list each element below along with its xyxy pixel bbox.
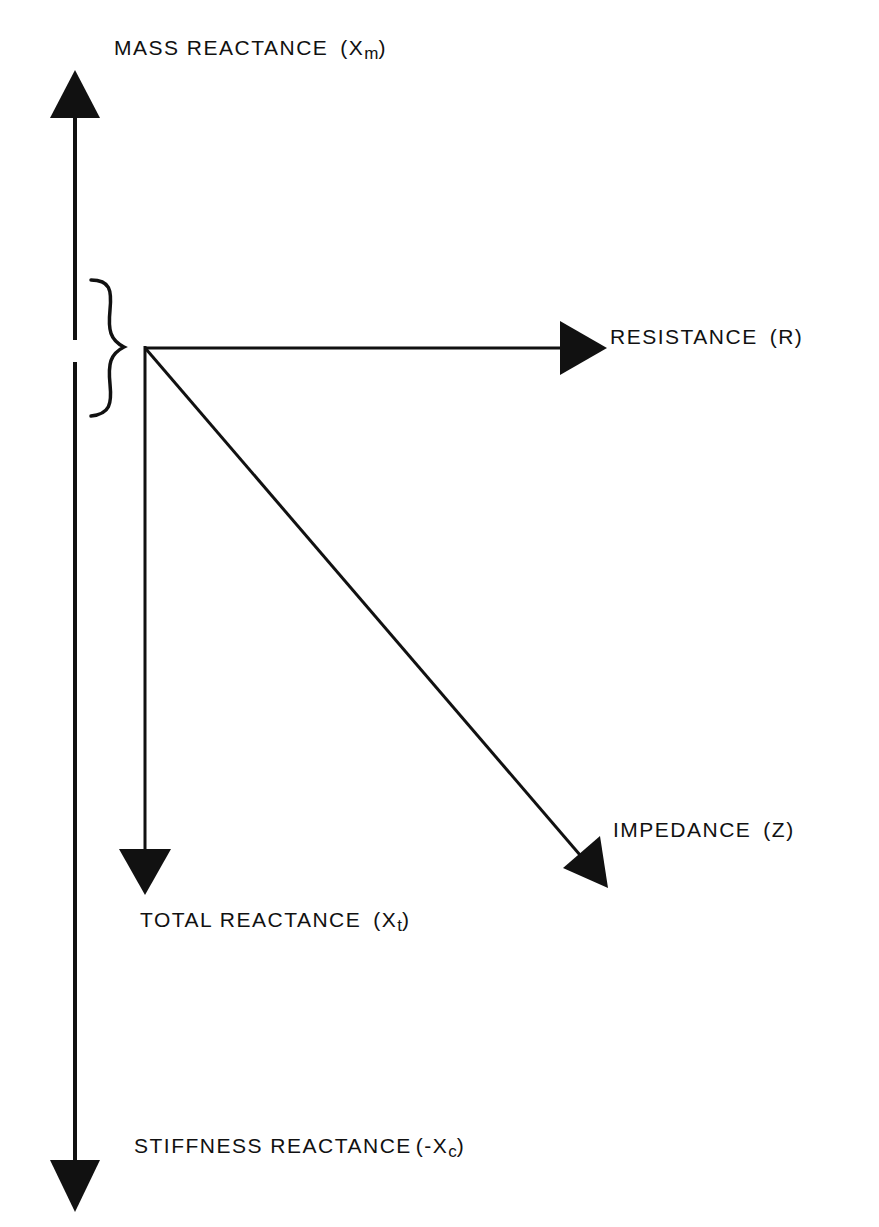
symbol: (X — [373, 908, 397, 931]
reactance-axis — [50, 70, 100, 1212]
symbol: (X — [340, 36, 364, 59]
label-text: TOTAL REACTANCE — [140, 908, 361, 931]
symbol-close: ) — [402, 908, 411, 931]
label-total-reactance: TOTAL REACTANCE(Xt) — [140, 908, 411, 932]
subscript: t — [397, 916, 402, 935]
label-text: STIFFNESS REACTANCE — [134, 1134, 412, 1157]
arrow-down-icon — [119, 849, 171, 895]
label-text: RESISTANCE — [610, 325, 758, 348]
arrow-down-icon — [50, 1160, 100, 1212]
label-text: MASS REACTANCE — [114, 36, 328, 59]
label-impedance: IMPEDANCE(Z) — [613, 818, 795, 842]
total-reactance-vector — [119, 346, 171, 895]
label-mass-reactance: MASS REACTANCE(Xm) — [114, 36, 387, 60]
symbol-close: ) — [378, 36, 387, 59]
impedance-vector — [146, 349, 608, 888]
label-text: IMPEDANCE — [613, 818, 751, 841]
impedance-phasor-diagram: MASS REACTANCE(Xm) RESISTANCE(R) IMPEDAN… — [0, 0, 879, 1227]
resistance-vector — [145, 321, 607, 375]
diagram-graphics — [0, 0, 879, 1227]
subscript: c — [448, 1142, 457, 1161]
subscript: m — [364, 44, 378, 63]
symbol-close: ) — [457, 1134, 466, 1157]
arrow-right-icon — [560, 321, 607, 375]
arrow-up-icon — [50, 70, 100, 118]
symbol: (R) — [770, 325, 804, 348]
label-resistance: RESISTANCE(R) — [610, 325, 803, 349]
symbol: (Z) — [763, 818, 794, 841]
label-stiffness-reactance: STIFFNESS REACTANCE(-Xc) — [134, 1134, 465, 1158]
brace-icon — [91, 280, 124, 416]
symbol: (-X — [416, 1134, 449, 1157]
